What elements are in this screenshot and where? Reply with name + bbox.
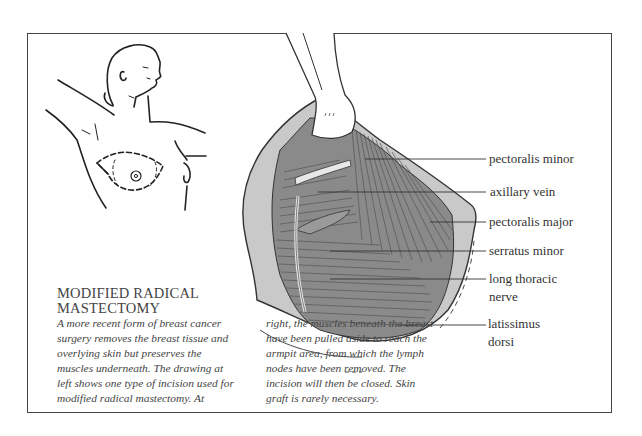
title-line: MODIFIED RADICAL [57,286,199,301]
label-serratus-minor: serratus minor [489,243,564,258]
caption-line: A more recent form of breast cancer [57,316,257,331]
caption-left: A more recent form of breast cancer surg… [57,316,257,406]
label-long-thoracic-nerve: long thoracic nerve [489,271,557,304]
label-pectoralis-minor: pectoralis minor [489,151,574,166]
label-text: long thoracic [489,271,557,286]
label-latissimus-dorsi: latissimus dorsi [488,316,540,349]
caption-line: graft is rarely necessary. [266,391,466,406]
caption-line: left shows one type of incision used for [57,376,257,391]
label-text: nerve [489,289,557,304]
label-text: axillary vein [490,184,555,199]
label-pectoralis-major: pectoralis major [489,214,573,229]
caption-line: muscles underneath. The drawing at [57,361,257,376]
caption-line: overlying skin but preserves the [57,346,257,361]
caption-line: surgery removes the breast tissue and [57,331,257,346]
label-text: dorsi [488,334,540,349]
title-line: MASTECTOMY [57,301,199,316]
caption-line: armpit area, from which the lymph [266,346,466,361]
caption-line: modified radical mastectomy. At [57,391,257,406]
caption-line: right, the muscles beneath the breast [266,316,466,331]
label-axillary-vein: axillary vein [490,184,555,199]
caption-right: right, the muscles beneath the breast ha… [266,316,466,406]
caption-line: nodes have been removed. The [266,361,466,376]
torso-figure [46,45,206,210]
label-text: pectoralis major [489,214,573,229]
label-text: latissimus [488,316,540,331]
label-text: serratus minor [489,243,564,258]
caption-line: incision will then be closed. Skin [266,376,466,391]
label-text: pectoralis minor [489,151,574,166]
figure-title: MODIFIED RADICAL MASTECTOMY [57,286,199,316]
caption-line: have been pulled aside to reach the [266,331,466,346]
